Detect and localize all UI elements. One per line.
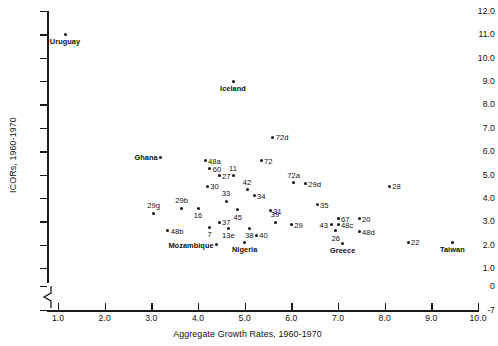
y-tick-label: 5.0 bbox=[461, 170, 495, 180]
axis-break-mark bbox=[41, 286, 55, 308]
y-tick-label: 11.0 bbox=[461, 29, 495, 39]
x-tick-label: 4.0 bbox=[178, 313, 218, 323]
x-tick-mark bbox=[245, 303, 246, 310]
data-point-label: 27 bbox=[222, 172, 231, 181]
y-axis-line bbox=[47, 11, 49, 283]
x-tick-label: 7.0 bbox=[318, 313, 358, 323]
data-point-label: 13e bbox=[222, 231, 235, 240]
data-point-label: 29 bbox=[294, 221, 303, 230]
data-point bbox=[316, 203, 319, 206]
y-tick-label: 10.0 bbox=[461, 53, 495, 63]
y-tick-label: 9.0 bbox=[461, 76, 495, 86]
data-point bbox=[337, 217, 340, 220]
x-tick-label: 8.0 bbox=[365, 313, 405, 323]
data-point-label: 16 bbox=[194, 211, 203, 220]
data-point bbox=[232, 80, 235, 83]
data-point bbox=[260, 159, 263, 162]
x-tick-mark bbox=[198, 303, 199, 310]
y-tick-label: 4.0 bbox=[461, 193, 495, 203]
data-point bbox=[334, 229, 337, 232]
data-point-label: 35 bbox=[320, 201, 329, 210]
y-tick-mark bbox=[40, 310, 47, 311]
data-point bbox=[243, 241, 246, 244]
data-point-label: 7 bbox=[208, 230, 212, 239]
data-point-label: Ghana bbox=[134, 153, 157, 162]
data-point bbox=[218, 174, 221, 177]
data-point-label: 38 bbox=[245, 231, 254, 240]
x-tick-mark bbox=[431, 303, 432, 310]
data-point-label: 37 bbox=[222, 218, 231, 227]
data-point bbox=[271, 136, 274, 139]
data-point bbox=[152, 212, 155, 215]
x-tick-label: 5.0 bbox=[225, 313, 265, 323]
data-point bbox=[218, 221, 221, 224]
data-point-label: 29g bbox=[147, 201, 160, 210]
data-point-label: 11 bbox=[229, 164, 237, 173]
data-point bbox=[330, 223, 333, 226]
y-tick-mark bbox=[40, 245, 47, 246]
data-point bbox=[358, 230, 361, 233]
y-tick-mark bbox=[40, 221, 47, 222]
y-tick-label: 0 bbox=[461, 281, 495, 291]
data-point-label: 29b bbox=[175, 196, 188, 205]
data-point bbox=[255, 234, 258, 237]
x-tick-mark bbox=[151, 303, 152, 310]
x-tick-label: 6.0 bbox=[271, 313, 311, 323]
y-tick-mark bbox=[40, 151, 47, 152]
x-tick-label: 3.0 bbox=[131, 313, 171, 323]
x-tick-label: 1.0 bbox=[38, 313, 78, 323]
x-tick-mark bbox=[338, 303, 339, 310]
data-point-label: Greece bbox=[330, 246, 355, 255]
y-tick-mark bbox=[40, 128, 47, 129]
data-point-label: Nigeria bbox=[232, 245, 257, 254]
data-point bbox=[304, 182, 307, 185]
y-tick-mark bbox=[40, 104, 47, 105]
y-tick-mark bbox=[40, 34, 47, 35]
x-tick-mark bbox=[385, 303, 386, 310]
x-tick-label: 2.0 bbox=[85, 313, 125, 323]
data-point bbox=[159, 156, 162, 159]
data-point-label: 45 bbox=[233, 213, 242, 222]
data-point bbox=[248, 227, 251, 230]
data-point-label: 30 bbox=[210, 182, 219, 191]
data-point bbox=[215, 243, 218, 246]
data-point bbox=[290, 223, 293, 226]
y-tick-mark bbox=[40, 175, 47, 176]
data-point bbox=[358, 217, 361, 220]
data-point-label: 42 bbox=[243, 178, 252, 187]
data-point-label: Mozambique bbox=[168, 241, 213, 250]
data-point bbox=[246, 188, 249, 191]
data-point bbox=[208, 167, 211, 170]
x-axis-line bbox=[47, 310, 479, 312]
data-point bbox=[253, 194, 256, 197]
data-point bbox=[225, 200, 228, 203]
y-tick-label: 2.0 bbox=[461, 240, 495, 250]
data-point-label: 72a bbox=[287, 171, 300, 180]
data-point-label: 72d bbox=[276, 133, 289, 142]
data-point bbox=[236, 208, 239, 211]
data-point bbox=[292, 181, 295, 184]
x-tick-mark bbox=[478, 303, 479, 310]
x-tick-mark bbox=[58, 303, 59, 310]
y-tick-mark bbox=[40, 81, 47, 82]
data-point-label: 29d bbox=[308, 180, 321, 189]
data-point-label: Uruguay bbox=[50, 37, 80, 46]
data-point-label: 48c bbox=[341, 221, 353, 230]
data-point bbox=[388, 185, 391, 188]
data-point bbox=[227, 227, 230, 230]
data-point bbox=[166, 229, 169, 232]
x-tick-label: 10.0 bbox=[458, 313, 498, 323]
data-point-label: 60 bbox=[213, 165, 222, 174]
data-point-label: Taiwan bbox=[440, 245, 465, 254]
y-tick-label: 3.0 bbox=[461, 216, 495, 226]
data-point bbox=[197, 207, 200, 210]
data-point bbox=[232, 174, 235, 177]
x-axis-title: Aggregate Growth Rates, 1960-1970 bbox=[0, 329, 495, 339]
data-point bbox=[206, 185, 209, 188]
data-point bbox=[341, 242, 344, 245]
y-tick-mark bbox=[40, 286, 47, 287]
y-tick-mark bbox=[40, 198, 47, 199]
data-point-label: 20 bbox=[362, 215, 371, 224]
data-point-label: 43 bbox=[319, 221, 328, 230]
